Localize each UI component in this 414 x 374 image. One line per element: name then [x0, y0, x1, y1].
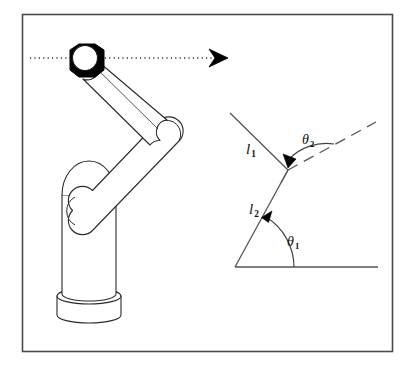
gripper-end-effector	[70, 44, 104, 77]
gripper-wrist-circle	[73, 46, 98, 71]
figure-canvas	[0, 0, 414, 374]
label-link2: l2	[249, 202, 259, 219]
figure-root: l1 l2 θ2 θ1	[0, 0, 414, 374]
label-angle2: θ2	[302, 133, 314, 148]
label-angle1: θ1	[287, 235, 299, 250]
label-link1: l1	[246, 142, 256, 159]
